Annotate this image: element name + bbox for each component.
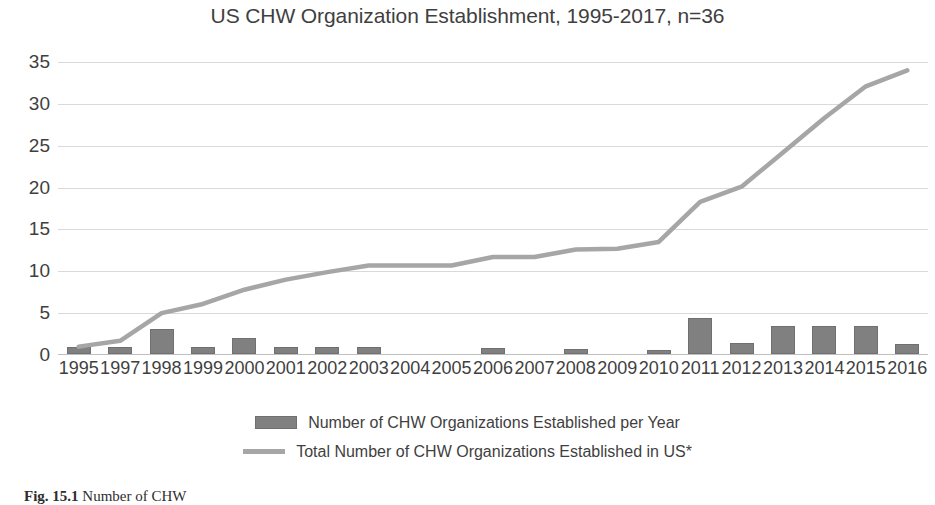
chart-title: US CHW Organization Establishment, 1995-… bbox=[0, 4, 935, 28]
x-tick-label: 2003 bbox=[349, 358, 389, 379]
legend-item-bars: Number of CHW Organizations Established … bbox=[0, 408, 935, 437]
x-tick-label: 2000 bbox=[224, 358, 264, 379]
legend-item-label: Total Number of CHW Organizations Establ… bbox=[296, 443, 692, 461]
y-tick-label: 0 bbox=[39, 344, 50, 366]
x-tick-label: 2007 bbox=[514, 358, 554, 379]
x-tick-label: 2009 bbox=[597, 358, 637, 379]
x-tick-label: 2011 bbox=[681, 358, 720, 379]
y-tick-label: 35 bbox=[29, 51, 50, 73]
x-tick-label: 1997 bbox=[100, 358, 140, 379]
x-tick-label: 2015 bbox=[846, 358, 886, 379]
plot-area bbox=[58, 62, 928, 355]
total-line-path bbox=[79, 70, 908, 346]
x-tick-label: 1998 bbox=[142, 358, 182, 379]
x-tick-label: 1995 bbox=[59, 358, 99, 379]
y-tick-label: 10 bbox=[29, 260, 50, 282]
legend-item-label: Number of CHW Organizations Established … bbox=[308, 414, 680, 432]
x-tick-label: 2013 bbox=[763, 358, 803, 379]
y-tick-label: 20 bbox=[29, 177, 50, 199]
x-tick-label: 2002 bbox=[307, 358, 347, 379]
x-axis-baseline bbox=[58, 354, 928, 355]
figure-caption-text: Number of CHW bbox=[82, 488, 186, 504]
x-tick-label: 2005 bbox=[432, 358, 472, 379]
x-tick-label: 2006 bbox=[473, 358, 513, 379]
y-tick-label: 25 bbox=[29, 135, 50, 157]
legend-line-swatch-icon bbox=[243, 449, 285, 454]
x-tick-label: 2012 bbox=[722, 358, 762, 379]
y-tick-label: 30 bbox=[29, 93, 50, 115]
y-tick-label: 15 bbox=[29, 218, 50, 240]
x-tick-label: 2014 bbox=[804, 358, 844, 379]
x-tick-label: 2008 bbox=[556, 358, 596, 379]
x-axis: 1995199719981999200020012002200320042005… bbox=[58, 358, 928, 386]
x-tick-label: 2010 bbox=[639, 358, 679, 379]
y-axis: 05101520253035 bbox=[0, 62, 50, 355]
x-tick-label: 2001 bbox=[266, 358, 306, 379]
figure-chart-us-chw-organization-establishment: US CHW Organization Establishment, 1995-… bbox=[0, 0, 935, 505]
x-tick-label: 2016 bbox=[887, 358, 927, 379]
legend-bar-swatch-icon bbox=[255, 416, 297, 429]
line-series-layer bbox=[58, 62, 928, 355]
figure-number: Fig. 15.1 bbox=[24, 488, 79, 504]
x-tick-label: 2004 bbox=[390, 358, 430, 379]
x-tick-label: 1999 bbox=[183, 358, 223, 379]
figure-caption: Fig. 15.1 Number of CHW bbox=[24, 488, 914, 505]
chart-legend: Number of CHW Organizations Established … bbox=[0, 408, 935, 466]
y-tick-label: 5 bbox=[39, 302, 50, 324]
legend-item-line: Total Number of CHW Organizations Establ… bbox=[0, 437, 935, 466]
